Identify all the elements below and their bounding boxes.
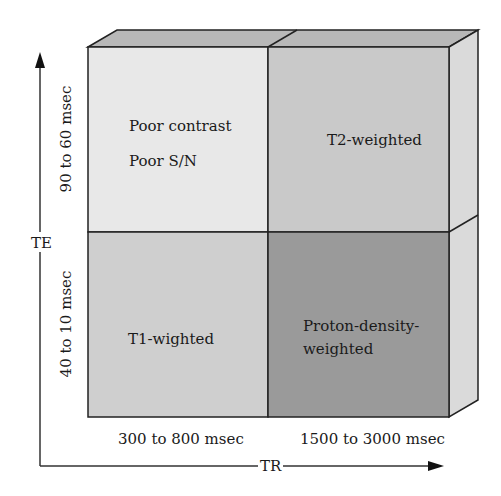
x-tick-left: 300 to 800 msec <box>118 430 244 448</box>
cell-top-left <box>88 47 268 232</box>
te-axis-label: TE <box>30 234 53 252</box>
cell-bottom-right-line2: weighted <box>303 340 373 358</box>
te-arrow-icon <box>35 52 45 68</box>
cell-bottom-left <box>88 232 268 417</box>
y-tick-upper: 90 to 60 msec <box>57 79 75 199</box>
cell-top-left-line1: Poor contrast <box>129 117 231 135</box>
cell-top-right-label: T2-weighted <box>327 131 422 149</box>
cell-bottom-right-line1: Proton-density- <box>303 317 419 335</box>
cell-top-left-line2: Poor S/N <box>129 152 197 170</box>
x-tick-right: 1500 to 3000 msec <box>300 430 445 448</box>
cell-bottom-left-label: T1-wighted <box>128 330 214 348</box>
tr-arrow-icon <box>428 461 444 471</box>
grid-diagram <box>0 0 501 496</box>
tr-axis-label: TR <box>258 457 283 475</box>
y-tick-lower: 40 to 10 msec <box>57 264 75 384</box>
